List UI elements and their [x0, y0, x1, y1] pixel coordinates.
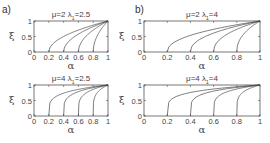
panel-title: μ=2 λ1=2.5: [52, 10, 91, 21]
y-axis-label: ξ: [119, 30, 125, 41]
curve-alpha0-0.4: [190, 21, 260, 52]
curve-alpha0-0.8: [93, 85, 108, 116]
x-tick-label: 1: [106, 117, 110, 126]
x-tick-label: 0.6: [73, 53, 83, 62]
y-tick-label: 1: [28, 17, 32, 26]
x-axis-label: α: [68, 60, 75, 71]
y-axis-label: ξ: [9, 30, 15, 41]
x-tick-label: 0.8: [88, 53, 98, 62]
x-tick-label: 0.4: [185, 53, 195, 62]
x-tick-label: 1: [258, 53, 262, 62]
x-tick-label: 0: [32, 117, 36, 126]
plot-b-bottom: [144, 85, 260, 116]
y-tick-label: 0: [138, 112, 142, 121]
x-tick-label: 0.6: [208, 117, 218, 126]
x-tick-label: 0: [32, 53, 36, 62]
y-tick-label: 0.5: [132, 96, 142, 105]
x-tick-label: 0.8: [232, 117, 242, 126]
x-tick-label: 0.2: [44, 117, 54, 126]
curve-alpha0-0.8: [237, 85, 260, 116]
panel-title: μ=4 λ1=2.5: [52, 74, 91, 85]
plot-a-bottom: [34, 85, 108, 116]
y-axis-label: ξ: [119, 94, 125, 105]
y-tick-label: 1: [138, 81, 142, 90]
x-axis-label: α: [68, 124, 75, 135]
x-tick-label: 0: [142, 117, 146, 126]
x-tick-label: 0.2: [162, 53, 172, 62]
y-tick-label: 1: [28, 81, 32, 90]
curve-alpha0-0.4: [190, 85, 260, 116]
plot-b-top: [144, 21, 260, 52]
x-tick-label: 0: [142, 53, 146, 62]
x-tick-label: 0.2: [44, 53, 54, 62]
x-tick-label: 0.8: [232, 53, 242, 62]
x-tick-label: 0.4: [185, 117, 195, 126]
y-tick-label: 0.5: [132, 32, 142, 41]
plot-canvas: [0, 0, 270, 143]
y-tick-label: 0.5: [22, 96, 32, 105]
x-tick-label: 0.2: [162, 117, 172, 126]
panel-title: μ=4 λ1=4: [186, 74, 218, 85]
y-tick-label: 0.5: [22, 32, 32, 41]
x-axis-label: α: [199, 60, 206, 71]
curve-alpha0-0.4: [64, 85, 108, 116]
x-tick-label: 0.6: [73, 117, 83, 126]
y-tick-label: 1: [138, 17, 142, 26]
plot-a-top: [34, 21, 108, 52]
x-axis-label: α: [199, 124, 206, 135]
y-axis-label: ξ: [9, 94, 15, 105]
x-tick-label: 0.6: [208, 53, 218, 62]
y-tick-label: 0: [138, 48, 142, 57]
x-tick-label: 0.8: [88, 117, 98, 126]
y-tick-label: 0: [28, 48, 32, 57]
x-tick-label: 1: [106, 53, 110, 62]
x-tick-label: 1: [258, 117, 262, 126]
panel-title: μ=2 λ1=4: [186, 10, 218, 21]
y-tick-label: 0: [28, 112, 32, 121]
